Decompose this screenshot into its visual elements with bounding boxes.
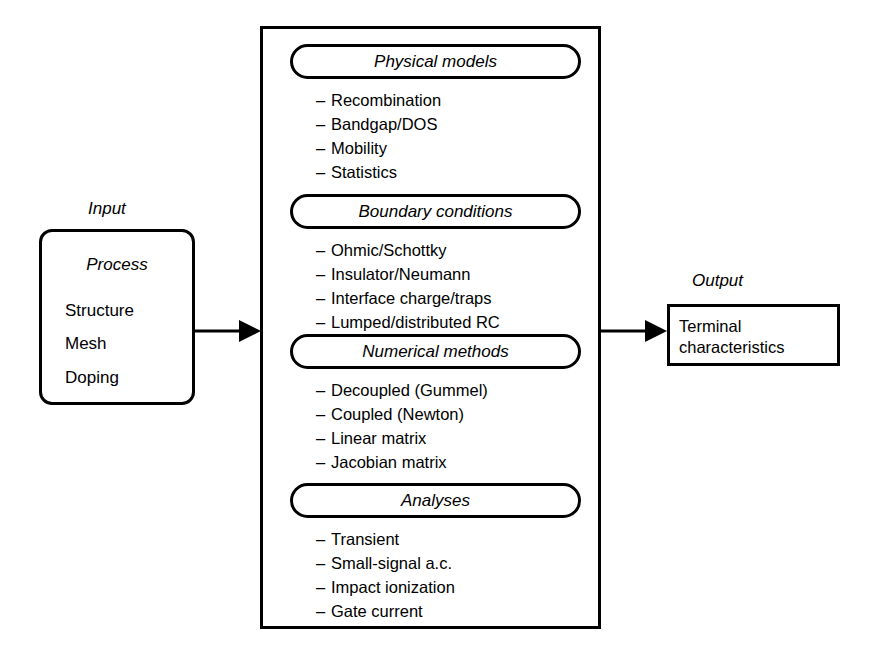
bullet-dash: –: [316, 136, 331, 160]
bullet-dash: –: [316, 286, 331, 310]
bullet-dash: –: [316, 402, 331, 426]
bullet-dash: –: [316, 310, 331, 334]
list-item: –Mobility: [316, 136, 596, 160]
bullet-dash: –: [316, 160, 331, 184]
bullet-dash: –: [316, 262, 331, 286]
section-list-boundary-conditions: –Ohmic/Schottky –Insulator/Neumann –Inte…: [316, 238, 596, 334]
list-item-label: Decoupled (Gummel): [331, 381, 488, 399]
list-item: –Transient: [316, 527, 596, 551]
diagram-canvas: Input Process Structure Mesh Doping Phys…: [0, 0, 875, 670]
list-item: –Statistics: [316, 160, 596, 184]
list-item: –Decoupled (Gummel): [316, 378, 596, 402]
output-label: Output: [692, 272, 743, 289]
section-list-numerical-methods: –Decoupled (Gummel) –Coupled (Newton) –L…: [316, 378, 596, 474]
list-item-label: Interface charge/traps: [331, 289, 492, 307]
section-list-physical-models: –Recombination –Bandgap/DOS –Mobility –S…: [316, 88, 596, 184]
bullet-dash: –: [316, 575, 331, 599]
section-header-label: Analyses: [401, 492, 470, 509]
input-process-box: Process Structure Mesh Doping: [39, 229, 195, 405]
bullet-dash: –: [316, 378, 331, 402]
list-item-label: Mobility: [331, 139, 387, 157]
process-box-title: Process: [42, 256, 192, 273]
list-item-label: Small-signal a.c.: [331, 554, 452, 572]
section-header-label: Numerical methods: [362, 343, 508, 360]
list-item-label: Transient: [331, 530, 399, 548]
process-item-structure: Structure: [65, 302, 134, 319]
output-terminal-box: Terminal characteristics: [667, 304, 840, 366]
list-item-label: Gate current: [331, 602, 423, 620]
arrow-simulator-to-output: [601, 316, 669, 346]
list-item: –Recombination: [316, 88, 596, 112]
terminal-box-line-2: characteristics: [679, 337, 837, 358]
section-header-numerical-methods: Numerical methods: [290, 334, 581, 369]
arrow-input-to-simulator: [195, 316, 263, 346]
process-item-mesh: Mesh: [65, 335, 107, 352]
list-item: –Lumped/distributed RC: [316, 310, 596, 334]
bullet-dash: –: [316, 599, 331, 623]
list-item-label: Jacobian matrix: [331, 453, 447, 471]
list-item: –Jacobian matrix: [316, 450, 596, 474]
list-item-label: Insulator/Neumann: [331, 265, 470, 283]
list-item-label: Bandgap/DOS: [331, 115, 437, 133]
section-header-physical-models: Physical models: [290, 44, 581, 79]
list-item-label: Impact ionization: [331, 578, 455, 596]
terminal-box-line-1: Terminal: [679, 316, 837, 337]
list-item-label: Recombination: [331, 91, 441, 109]
list-item: –Linear matrix: [316, 426, 596, 450]
list-item: –Coupled (Newton): [316, 402, 596, 426]
section-header-label: Physical models: [374, 53, 497, 70]
list-item: –Small-signal a.c.: [316, 551, 596, 575]
section-list-analyses: –Transient –Small-signal a.c. –Impact io…: [316, 527, 596, 623]
list-item: –Bandgap/DOS: [316, 112, 596, 136]
list-item-label: Coupled (Newton): [331, 405, 464, 423]
list-item-label: Ohmic/Schottky: [331, 241, 447, 259]
list-item: –Insulator/Neumann: [316, 262, 596, 286]
bullet-dash: –: [316, 88, 331, 112]
bullet-dash: –: [316, 112, 331, 136]
list-item-label: Lumped/distributed RC: [331, 313, 500, 331]
section-header-analyses: Analyses: [290, 483, 581, 518]
section-header-label: Boundary conditions: [358, 203, 512, 220]
input-label: Input: [88, 200, 126, 217]
process-item-doping: Doping: [65, 369, 119, 386]
bullet-dash: –: [316, 238, 331, 262]
list-item-label: Linear matrix: [331, 429, 426, 447]
list-item: –Interface charge/traps: [316, 286, 596, 310]
list-item-label: Statistics: [331, 163, 397, 181]
list-item: –Impact ionization: [316, 575, 596, 599]
list-item: –Ohmic/Schottky: [316, 238, 596, 262]
section-header-boundary-conditions: Boundary conditions: [290, 194, 581, 229]
bullet-dash: –: [316, 426, 331, 450]
list-item: –Gate current: [316, 599, 596, 623]
bullet-dash: –: [316, 551, 331, 575]
bullet-dash: –: [316, 450, 331, 474]
bullet-dash: –: [316, 527, 331, 551]
